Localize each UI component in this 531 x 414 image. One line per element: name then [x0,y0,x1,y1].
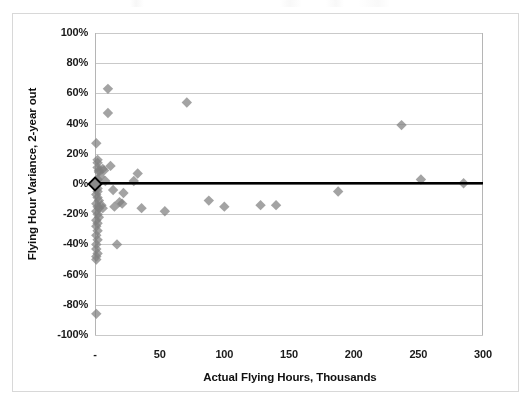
y-tick-label: -100% [28,328,88,340]
y-tick-label: 100% [28,26,88,38]
y-tick-label: 80% [28,56,88,68]
x-tick-label: 100 [199,348,249,360]
y-tick-label: 20% [28,147,88,159]
y-tick-label: -80% [28,298,88,310]
y-tick-label: -60% [28,268,88,280]
x-tick-label: 150 [264,348,314,360]
x-tick-label: 250 [393,348,443,360]
y-tick-label: 40% [28,117,88,129]
y-tick-label: 0% [28,177,88,189]
y-tick-label: -20% [28,207,88,219]
x-tick-label: 300 [458,348,508,360]
x-tick-label: 50 [135,348,185,360]
y-tick-label: 60% [28,86,88,98]
x-tick-label: 200 [329,348,379,360]
x-axis-title: Actual Flying Hours, Thousands [95,371,485,383]
y-tick-label: -40% [28,237,88,249]
x-tick-label: - [70,348,120,360]
